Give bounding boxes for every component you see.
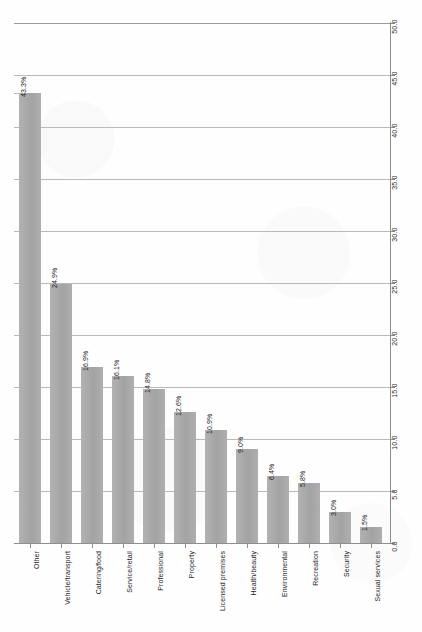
value-axis-label: 10.0: [391, 435, 398, 449]
value-axis-label: 45.0: [391, 71, 398, 85]
gridline-50-0: [14, 23, 390, 24]
bar-shading: [174, 412, 196, 543]
bar-shading: [236, 449, 258, 543]
value-axis-label: 0.0: [391, 541, 398, 551]
category-axis-label: Recreation: [312, 551, 319, 586]
bar[interactable]: [267, 476, 289, 543]
value-axis-label: 20.0: [391, 331, 398, 345]
bar[interactable]: [50, 284, 72, 543]
bar-value-label: 14.8%: [144, 373, 151, 393]
bar[interactable]: [112, 376, 134, 543]
bar[interactable]: [236, 449, 258, 543]
value-axis-label: 40.0: [391, 123, 398, 137]
category-axis-label: Service/retail: [126, 551, 133, 593]
category-axis-tick: [371, 544, 372, 548]
bar-value-label: 3.0%: [330, 499, 337, 515]
category-axis-tick: [92, 544, 93, 548]
category-axis-label: Catering/food: [95, 551, 102, 594]
bar-top-stub: [14, 93, 20, 94]
gridline-30-0: [14, 231, 390, 232]
category-axis-line: [14, 543, 391, 544]
category-axis-tick: [61, 544, 62, 548]
bar[interactable]: [298, 483, 320, 543]
bar[interactable]: [19, 93, 41, 543]
bar-shading: [143, 389, 165, 543]
category-axis-tick: [185, 544, 186, 548]
bar-shading: [50, 284, 72, 543]
category-axis-tick: [123, 544, 124, 548]
category-axis-label: Health/beauty: [250, 551, 257, 596]
category-axis-label: Other: [33, 551, 40, 569]
bar-value-label: 16.1%: [113, 359, 120, 379]
bar-value-label: 1.5%: [361, 515, 368, 531]
value-axis-label: 25.0: [391, 279, 398, 293]
bar-value-label: 24.9%: [51, 268, 58, 288]
chart-page: 43.3%24.9%16.9%16.1%14.8%12.6%10.9%9.0%6…: [0, 0, 422, 632]
category-axis-label: Environmental: [281, 551, 288, 597]
bar[interactable]: [205, 430, 227, 543]
category-axis-label: Property: [188, 551, 195, 578]
bar-shading: [329, 512, 351, 543]
bar-value-label: 6.4%: [268, 464, 275, 480]
value-axis-label: 5.0: [391, 489, 398, 499]
gridline-40-0: [14, 127, 390, 128]
bar-value-label: 10.9%: [206, 413, 213, 433]
bar-value-label: 5.8%: [299, 470, 306, 486]
value-axis-label: 35.0: [391, 175, 398, 189]
bar[interactable]: [329, 512, 351, 543]
category-axis-label: Vehicle/transport: [64, 551, 71, 605]
bar-value-label: 16.9%: [82, 351, 89, 371]
bar-shading: [205, 430, 227, 543]
category-axis-tick: [278, 544, 279, 548]
category-axis-tick: [247, 544, 248, 548]
bar[interactable]: [81, 367, 103, 543]
category-axis-label: Sexual services: [374, 551, 381, 602]
bar-shading: [19, 93, 41, 543]
gridline-45-0: [14, 75, 390, 76]
bar[interactable]: [143, 389, 165, 543]
bar-shading: [112, 376, 134, 543]
category-axis-label: Security: [343, 551, 350, 577]
category-axis-tick: [216, 544, 217, 548]
value-axis-label: 30.0: [391, 227, 398, 241]
bar-shading: [298, 483, 320, 543]
value-axis-label: 50.0: [391, 19, 398, 33]
category-axis-tick: [309, 544, 310, 548]
bar-shading: [267, 476, 289, 543]
bar-value-label: 43.3%: [20, 76, 27, 96]
bar-shading: [81, 367, 103, 543]
bar[interactable]: [174, 412, 196, 543]
category-axis-tick: [154, 544, 155, 548]
category-axis-label: Professional: [157, 551, 164, 591]
category-axis-tick: [340, 544, 341, 548]
category-axis-label: Licensed premises: [219, 551, 226, 611]
value-axis-label: 15.0: [391, 383, 398, 397]
category-axis-tick: [30, 544, 31, 548]
bar-value-label: 9.0%: [237, 437, 244, 453]
plot-area: 43.3%24.9%16.9%16.1%14.8%12.6%10.9%9.0%6…: [14, 23, 390, 543]
gridline-35-0: [14, 179, 390, 180]
bar-value-label: 12.6%: [175, 396, 182, 416]
